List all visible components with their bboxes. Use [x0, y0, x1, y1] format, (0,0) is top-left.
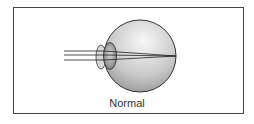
lens: [104, 43, 117, 70]
caption: Normal: [0, 97, 254, 109]
